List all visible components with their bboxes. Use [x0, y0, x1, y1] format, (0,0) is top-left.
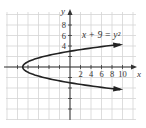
equation-label: x + 9 = y² — [81, 30, 121, 40]
y-axis-label: y — [60, 6, 65, 16]
x-tick-label: 8 — [110, 69, 114, 79]
parabola-chart: 246810468 x + 9 = y² x y — [0, 0, 146, 128]
y-tick-label: 8 — [62, 20, 66, 30]
x-axis-label: x — [136, 69, 141, 79]
x-tick-label: 6 — [99, 69, 103, 79]
x-tick-label: 2 — [78, 69, 82, 79]
grid — [6, 12, 136, 120]
y-tick-label: 6 — [62, 31, 66, 41]
x-tick-label: 10 — [118, 69, 127, 79]
